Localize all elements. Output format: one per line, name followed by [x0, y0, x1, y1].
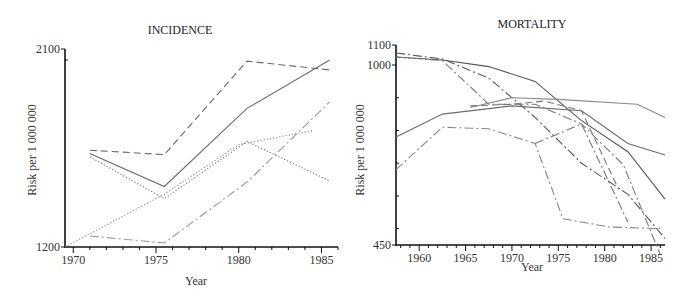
- line-series-dashed: [90, 61, 330, 155]
- mortality-title: MORTALITY: [498, 17, 567, 31]
- line-series-dashdot-d: [535, 124, 628, 222]
- line-series-solid-c: [396, 106, 665, 155]
- x-tick-label: 1980: [227, 253, 251, 267]
- line-series-solid: [90, 60, 330, 187]
- incidence-y-axis-label: Risk per 1 000 000: [25, 104, 39, 195]
- mortality-x-axis-label: Year: [521, 260, 543, 274]
- line-series-dashdot: [90, 102, 330, 243]
- line-series-dashed-a: [470, 101, 618, 189]
- x-tick-label: 1970: [61, 253, 85, 267]
- line-series-solid-a: [396, 57, 665, 199]
- line-series-dotted-b: [65, 130, 313, 247]
- x-tick-label: 1970: [500, 251, 524, 265]
- y-tick-label: 450: [373, 238, 391, 252]
- incidence-chart: INCIDENCE Year Risk per 1 000 000 197019…: [25, 23, 338, 288]
- x-tick-label: 1960: [407, 251, 431, 265]
- line-series-dashdot-c: [396, 127, 660, 228]
- x-tick-label: 1985: [309, 253, 333, 267]
- y-tick-label: 1000: [367, 58, 391, 72]
- x-tick-label: 1975: [546, 251, 570, 265]
- line-series-dashdot-a: [396, 53, 665, 239]
- y-tick-label: 2100: [36, 42, 60, 56]
- x-tick-label: 1980: [593, 251, 617, 265]
- figure: INCIDENCE Year Risk per 1 000 000 197019…: [0, 0, 686, 292]
- mortality-y-axis-label: Risk per 1 000 000: [353, 104, 367, 195]
- incidence-x-axis-label: Year: [185, 274, 207, 288]
- y-tick-label: 1100: [367, 38, 391, 52]
- y-tick-label: 1200: [36, 240, 60, 254]
- x-tick-label: 1965: [454, 251, 478, 265]
- x-tick-label: 1975: [144, 253, 168, 267]
- incidence-title: INCIDENCE: [148, 23, 213, 37]
- mortality-chart: MORTALITY Year Risk per 1 000 000 196019…: [353, 17, 665, 274]
- line-series-dashdot-b: [396, 57, 660, 255]
